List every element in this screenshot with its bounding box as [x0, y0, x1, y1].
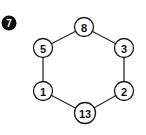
- node-label: 8: [81, 22, 87, 34]
- hexagon-number-diagram: 8321315 7: [0, 0, 146, 135]
- node-upper-left: 5: [34, 39, 53, 58]
- node-lower-left: 1: [34, 82, 53, 101]
- node-label: 13: [79, 108, 91, 120]
- nodes: 8321315: [34, 18, 134, 124]
- node-label: 2: [121, 86, 127, 98]
- node-label: 5: [40, 43, 46, 55]
- node-bottom: 13: [75, 103, 96, 124]
- node-label: 3: [121, 43, 127, 55]
- node-label: 1: [40, 86, 46, 98]
- problem-number-badge: 7: [2, 16, 17, 31]
- edges: [43, 27, 124, 113]
- node-lower-right: 2: [115, 82, 134, 101]
- node-upper-right: 3: [115, 39, 134, 58]
- node-top: 8: [75, 18, 94, 37]
- badge-label: 7: [6, 18, 12, 29]
